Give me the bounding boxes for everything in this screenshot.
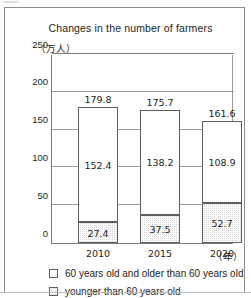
y-tick-label-200: 200 — [32, 76, 48, 87]
bar-segment-younger-2020: 52.7 — [202, 203, 242, 243]
bar-segment-younger-2015: 37.5 — [140, 215, 180, 243]
y-tick-label-100: 100 — [32, 151, 48, 162]
legend-item-younger: younger than 60 years old — [5, 282, 251, 298]
gridline-200 — [52, 91, 234, 92]
scan-artifact — [3, 1, 19, 3]
legend-label-younger: younger than 60 years old — [65, 286, 181, 297]
bar-2010: 152.427.4179.82010 — [78, 107, 118, 243]
bar-segment-label-younger-2020: 52.7 — [203, 218, 241, 229]
gridline-250 — [52, 53, 234, 54]
bar-total-label-2010: 179.8 — [73, 94, 123, 105]
bar-segment-label-younger-2015: 37.5 — [141, 224, 179, 235]
y-tick-label-50: 50 — [37, 189, 48, 200]
y-tick-label-250: 250 — [32, 38, 48, 49]
bar-2020: 108.952.7161.62020 — [202, 121, 242, 243]
legend-swatch-stipple-icon — [49, 287, 58, 296]
legend-item-older: 60 years old and older than 60 years old — [5, 264, 251, 282]
legend-swatch-white-icon — [49, 269, 58, 278]
y-tick-label-0: 0 — [43, 227, 48, 238]
legend-label-older: 60 years old and older than 60 years old — [65, 268, 243, 279]
x-tick-label-2015: 2015 — [133, 248, 187, 259]
bar-segment-label-younger-2010: 27.4 — [79, 228, 117, 239]
chart-title: Changes in the number of farmers — [5, 22, 251, 34]
x-axis-unit-label: （年） — [213, 249, 243, 263]
bar-segment-older-2010: 152.4 — [78, 107, 118, 222]
footer-divider — [0, 292, 251, 293]
bar-segment-younger-2010: 27.4 — [78, 222, 118, 243]
bar-2015: 138.237.5175.72015 — [140, 110, 180, 243]
bar-total-label-2015: 175.7 — [135, 97, 185, 108]
bar-segment-older-2015: 138.2 — [140, 110, 180, 214]
plot-area: 050100150200250 152.427.4179.82010138.23… — [51, 55, 233, 244]
bar-segment-label-older-2015: 138.2 — [141, 157, 179, 168]
chart-figure: Changes in the number of farmers （万人） 05… — [4, 7, 245, 293]
bar-total-label-2020: 161.6 — [197, 108, 247, 119]
x-tick-label-2010: 2010 — [71, 248, 125, 259]
y-tick-label-150: 150 — [32, 114, 48, 125]
bar-segment-label-older-2010: 152.4 — [79, 160, 117, 171]
bar-segment-label-older-2020: 108.9 — [203, 157, 241, 168]
bar-segment-older-2020: 108.9 — [202, 121, 242, 203]
